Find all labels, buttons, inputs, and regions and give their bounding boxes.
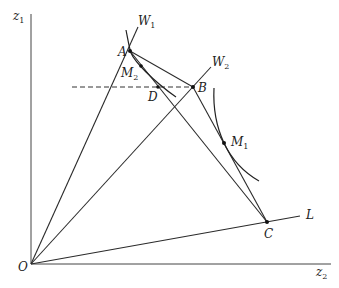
origin-label: O (18, 260, 28, 274)
w2-label: W2 (212, 55, 229, 71)
point-m2 (139, 64, 143, 68)
d-label: D (147, 90, 158, 104)
point-c (265, 220, 269, 224)
line-ab (130, 51, 193, 87)
l-label: L (305, 208, 314, 222)
w1-label: W1 (138, 14, 155, 30)
m2-label: M2 (120, 66, 138, 82)
point-b (191, 85, 195, 89)
diagram-canvas: z1 z2 O W1 W2 L A B C D M2 M1 (0, 0, 339, 288)
ray-w1 (31, 27, 138, 264)
ray-l (31, 216, 300, 264)
point-a (128, 49, 132, 53)
m1-label: M1 (230, 135, 248, 151)
c-label: C (264, 227, 273, 241)
a-label: A (117, 45, 127, 59)
b-label: B (197, 81, 207, 95)
point-m1 (222, 141, 226, 145)
point-d (156, 85, 160, 89)
z2-axis-label: z2 (315, 265, 327, 281)
ray-w2 (31, 67, 211, 264)
z1-axis-label: z1 (12, 9, 24, 25)
